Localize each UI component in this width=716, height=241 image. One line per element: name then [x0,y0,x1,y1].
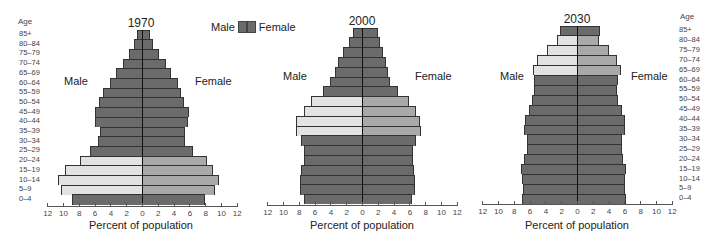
age-label: 45–49 [19,107,40,116]
bar-female [577,125,625,135]
x-tick-label: 6 [188,209,192,218]
x-tick [425,202,426,206]
bar-female [142,59,166,69]
bar-male [353,28,362,38]
age-label: 65–69 [19,68,40,77]
bar-female [142,49,159,59]
bar-male [95,117,142,127]
bar-male [311,96,362,106]
age-label: 25–29 [19,145,40,154]
x-tick [299,202,300,206]
age-label: 5–9 [19,184,32,193]
bar-female [142,107,189,117]
x-tick [672,201,673,205]
bar-female [142,146,193,156]
age-label: 20–24 [19,155,40,164]
bar-female [142,156,207,166]
bar-male [304,145,362,155]
male-side-label: Male [283,70,307,82]
bar-male [527,144,577,154]
bar-male [560,26,577,36]
x-tick [545,201,546,205]
bar-male [296,126,362,136]
x-tick-label: 10 [59,209,68,218]
x-tick [593,201,594,205]
x-tick [126,203,127,207]
x-tick-label: 4 [109,209,113,218]
bar-female [577,35,599,45]
female-side-label: Female [195,75,232,87]
bar-female [362,57,386,67]
x-tick [221,203,222,207]
bar-female [362,86,398,96]
bar-female [577,75,618,85]
x-tick [95,203,96,207]
x-tick [624,201,625,205]
bar-female [142,68,171,78]
bar-female [362,37,380,47]
x-tick [457,202,458,206]
x-tick-label: 10 [217,209,226,218]
bar-female [577,174,625,184]
age-label: 85+ [19,29,32,38]
x-tick [609,201,610,205]
x-tick [498,201,499,205]
x-tick [330,202,331,206]
x-tick-label: 10 [437,208,446,217]
age-label: 30–34 [19,136,40,145]
bar-male [103,88,142,98]
x-tick [346,202,347,206]
x-tick-label: 12 [453,208,462,217]
x-tick-label: 10 [279,208,288,217]
x-tick-label: 4 [329,208,333,217]
bar-male [335,67,362,77]
x-tick-label: 2 [376,208,380,217]
x-tick [63,203,64,207]
x-tick [482,201,483,205]
center-line [362,28,363,204]
x-tick-label: 12 [263,208,272,217]
x-tick-label: 6 [623,207,627,216]
x-axis-label: Percent of population [89,219,193,231]
bar-female [142,165,213,175]
x-tick-label: 0 [575,207,579,216]
x-tick [561,201,562,205]
age-label: 80–84 [679,35,700,44]
bar-female [362,77,390,87]
bar-male [524,154,577,164]
bar-male [129,49,142,59]
age-label: 35–39 [679,124,700,133]
legend: Male Female [211,21,296,33]
x-tick-label: 4 [172,209,176,218]
bar-female [142,78,178,88]
bar-male [90,146,142,156]
bar-male [95,107,142,117]
x-tick [441,202,442,206]
bar-male [524,125,577,135]
x-tick [409,202,410,206]
x-tick-label: 2 [591,207,595,216]
bar-female [577,95,618,105]
bar-male [80,156,142,166]
x-tick [142,203,143,207]
bar-female [142,136,185,146]
legend-female-label: Female [259,21,296,33]
x-tick [267,202,268,206]
x-tick [205,203,206,207]
x-tick-label: 2 [344,208,348,217]
bar-male [521,164,577,174]
bar-male [349,37,362,47]
age-label: 55–59 [679,84,700,93]
x-tick [189,203,190,207]
bar-female [362,145,413,155]
bar-male [110,78,142,88]
age-label: 55–59 [19,87,40,96]
bar-male [134,39,142,49]
bar-female [577,154,623,164]
bar-female [142,88,181,98]
x-axis-label: Percent of population [310,219,414,231]
x-tick-label: 6 [528,207,532,216]
x-tick-label: 0 [140,209,144,218]
bar-male [323,86,362,96]
bar-female [142,127,185,137]
